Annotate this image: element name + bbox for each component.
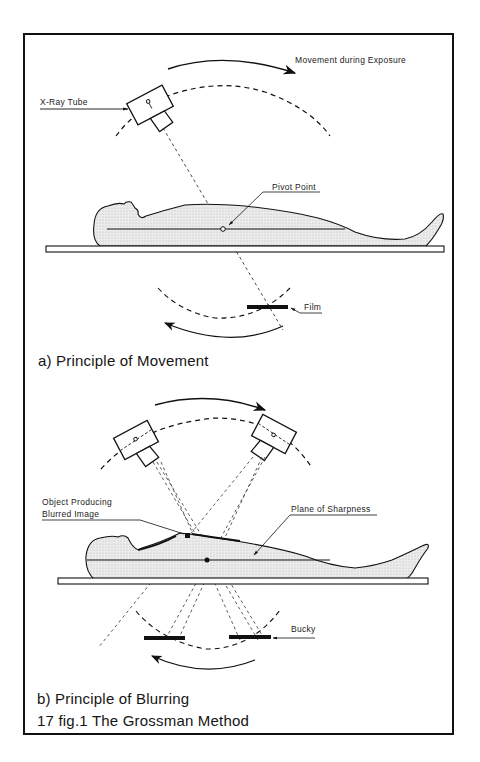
caption-a: a) Principle of Movement — [38, 352, 209, 369]
table — [46, 246, 444, 252]
film-path-arc — [158, 288, 290, 318]
patient-body — [94, 202, 444, 246]
film-movement-arrow-icon — [165, 323, 283, 337]
plane-label: Plane of Sharpness — [291, 504, 371, 514]
bucky-left — [144, 636, 185, 640]
object-label-line2: Blurred Image — [42, 509, 99, 519]
movement-arrow-icon — [168, 60, 295, 73]
pivot-point-label: Pivot Point — [272, 182, 316, 192]
table-b — [58, 578, 428, 584]
movement-label: Movement during Exposure — [295, 55, 406, 65]
film — [247, 305, 288, 309]
panel-a — [40, 60, 444, 337]
bucky-path-arc — [136, 610, 280, 649]
grossman-diagram — [0, 0, 480, 762]
x-ray-tube-icon — [127, 85, 181, 139]
patient-body-b — [86, 533, 428, 580]
blurring-object — [185, 533, 190, 538]
x-ray-tube-label: X-Ray Tube — [40, 97, 88, 107]
object-label-line1: Object Producing — [42, 497, 112, 507]
panel-b — [42, 399, 428, 670]
bucky-movement-arrow-icon — [152, 656, 255, 669]
x-ray-tube-left-icon — [114, 420, 166, 473]
pivot-point-marker — [221, 227, 226, 232]
movement-arrow-b-icon — [155, 399, 265, 410]
bucky-right — [229, 635, 271, 639]
focal-point — [205, 558, 210, 563]
figure-title: 17 fig.1 The Grossman Method — [37, 712, 249, 729]
caption-b: b) Principle of Blurring — [37, 690, 189, 707]
object-pointer — [42, 520, 184, 534]
bucky-label: Bucky — [291, 624, 316, 634]
film-label: Film — [304, 302, 321, 312]
